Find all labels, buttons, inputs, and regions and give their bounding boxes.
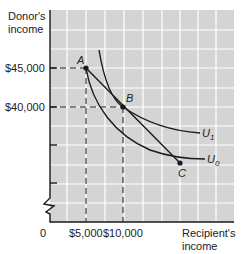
plot-area: [50, 10, 234, 222]
x-axis-title-line1: Recipient's: [182, 227, 236, 239]
chart: A B C U1 U0 Donor's income $45,000 $40,0…: [0, 0, 245, 254]
x-origin-label: 0: [40, 227, 46, 239]
y-tick-label-45000: $45,000: [5, 62, 45, 74]
point-a-label: A: [76, 54, 84, 66]
x-axis-title-line2: income: [182, 240, 217, 252]
y-tick-label-40000: $40,000: [5, 101, 45, 113]
point-c-label: C: [178, 167, 186, 179]
point-c: [177, 160, 182, 165]
y-axis-title-line1: Donor's: [8, 10, 46, 22]
point-b: [120, 104, 125, 109]
x-tick-label-5000: $5,000: [69, 227, 103, 239]
point-b-label: B: [126, 92, 133, 104]
x-tick-label-10000: $10,000: [103, 227, 143, 239]
y-axis-title-line2: income: [8, 23, 43, 35]
point-a: [83, 65, 88, 70]
